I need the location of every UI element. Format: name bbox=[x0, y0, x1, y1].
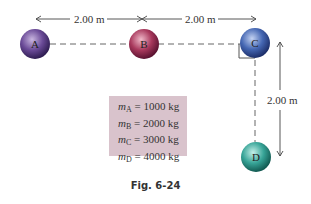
ball-d-label: D bbox=[252, 151, 260, 163]
ball-b: B bbox=[129, 29, 159, 59]
mass-value: = 2000 kg bbox=[134, 117, 179, 129]
mass-subscript: C bbox=[126, 138, 131, 147]
distance-bc-label: 2.00 m bbox=[185, 13, 216, 25]
ball-d: D bbox=[241, 142, 271, 172]
distance-cd-label: 2.00 m bbox=[267, 94, 298, 106]
mass-symbol: m bbox=[118, 150, 126, 162]
mass-subscript: D bbox=[126, 155, 132, 164]
mass-b: mB = 2000 kg bbox=[109, 117, 187, 134]
mass-symbol: m bbox=[118, 133, 126, 145]
mass-value: = 3000 kg bbox=[134, 133, 179, 145]
mass-value: = 1000 kg bbox=[134, 100, 179, 112]
ball-a: A bbox=[20, 29, 50, 59]
distance-ab-label: 2.00 m bbox=[74, 13, 105, 25]
ball-a-label: A bbox=[31, 38, 39, 50]
mass-table: mA = 1000 kg mB = 2000 kg mC = 3000 kg m… bbox=[109, 96, 187, 156]
mass-value: = 4000 kg bbox=[134, 150, 179, 162]
mass-d: mD = 4000 kg bbox=[109, 150, 187, 167]
mass-c: mC = 3000 kg bbox=[109, 133, 187, 150]
mass-symbol: m bbox=[118, 117, 126, 129]
mass-subscript: B bbox=[126, 122, 131, 131]
mass-a: mA = 1000 kg bbox=[109, 100, 187, 117]
ball-b-label: B bbox=[140, 38, 147, 50]
ball-c: C bbox=[240, 28, 270, 58]
mass-subscript: A bbox=[126, 105, 132, 114]
ball-c-label: C bbox=[251, 37, 258, 49]
figure-caption: Fig. 6-24 bbox=[0, 180, 311, 191]
mass-symbol: m bbox=[118, 100, 126, 112]
